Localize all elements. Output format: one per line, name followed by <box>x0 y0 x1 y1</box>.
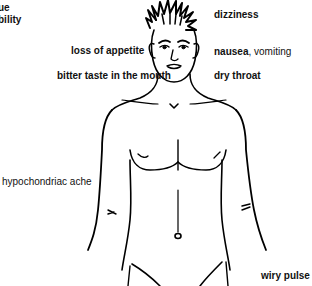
left-brow <box>159 41 170 43</box>
label-top-left-2: bility <box>0 14 21 26</box>
left-arm-inner <box>122 160 131 270</box>
label-hypochondriac-ache: hypochondriac ache <box>2 176 92 188</box>
left-hip-edge <box>128 266 130 286</box>
left-elbow-mark <box>108 210 116 214</box>
mouth <box>167 65 181 69</box>
label-bitter-taste: bitter taste in the mouth <box>57 70 171 82</box>
label-top-left-1: ue <box>0 2 10 14</box>
body-figure <box>0 0 312 286</box>
label-nausea-vomiting: nausea, vomiting <box>214 46 291 58</box>
sternal-notch <box>170 104 178 108</box>
right-arm-outer <box>236 110 266 250</box>
hair <box>146 0 196 30</box>
right-brow <box>178 41 189 43</box>
nose <box>171 50 178 61</box>
right-hip-edge <box>226 262 228 286</box>
right-nipple <box>214 152 220 158</box>
label-dizziness: dizziness <box>214 9 258 21</box>
right-hip <box>200 262 222 286</box>
right-elbow-mark <box>242 204 250 210</box>
navel <box>175 234 181 239</box>
label-dry-throat: dry throat <box>214 70 261 82</box>
left-hip <box>132 264 160 286</box>
label-loss-of-appetite: loss of appetite <box>71 45 144 57</box>
left-pec <box>130 150 178 170</box>
label-vomiting: , vomiting <box>248 46 291 57</box>
label-wiry-pulse: wiry pulse <box>261 270 310 282</box>
left-nipple <box>138 154 148 157</box>
label-nausea: nausea <box>214 46 248 57</box>
right-arm-inner <box>221 160 230 270</box>
